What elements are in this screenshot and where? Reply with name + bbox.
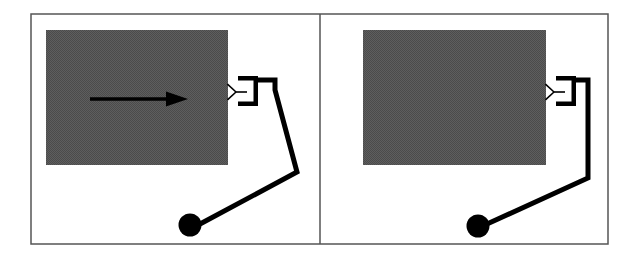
pointing-device-puck-left	[179, 214, 202, 237]
display-screen-right	[363, 30, 546, 165]
figure-container: Two-panel illustration of a display with…	[0, 0, 644, 260]
figure-canvas	[0, 0, 644, 260]
pointing-device-puck-right	[467, 215, 490, 238]
